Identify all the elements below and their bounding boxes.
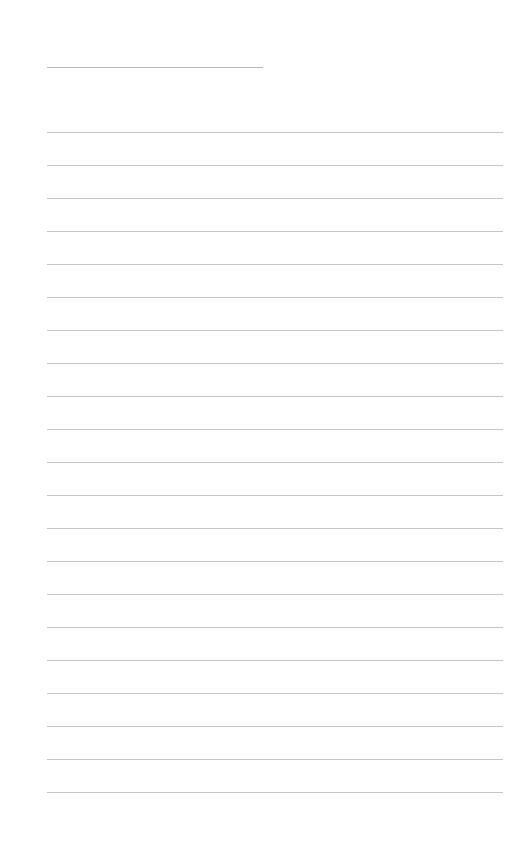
ruled-line xyxy=(47,528,503,529)
title-write-line xyxy=(47,67,263,68)
ruled-line xyxy=(47,495,503,496)
ruled-line xyxy=(47,792,503,793)
ruled-line xyxy=(47,594,503,595)
ruled-line xyxy=(47,363,503,364)
ruled-line xyxy=(47,561,503,562)
ruled-line xyxy=(47,330,503,331)
ruled-line xyxy=(47,759,503,760)
ruled-line xyxy=(47,429,503,430)
ruled-line xyxy=(47,231,503,232)
ruled-line xyxy=(47,627,503,628)
ruled-line xyxy=(47,693,503,694)
ruled-line xyxy=(47,396,503,397)
ruled-line xyxy=(47,198,503,199)
ruled-line xyxy=(47,462,503,463)
ruled-line xyxy=(47,132,503,133)
ruled-line xyxy=(47,297,503,298)
ruled-line xyxy=(47,165,503,166)
ruled-line xyxy=(47,660,503,661)
ruled-line xyxy=(47,726,503,727)
ruled-line xyxy=(47,264,503,265)
